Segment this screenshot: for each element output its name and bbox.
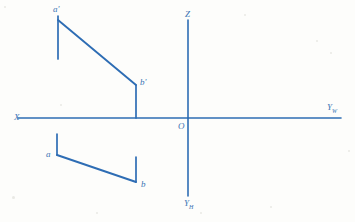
point-label-a: a: [46, 150, 51, 159]
paper-speckle: [316, 40, 318, 42]
z-axis-label: Z: [185, 10, 190, 19]
paper-speckle: [4, 6, 6, 8]
paper-speckle: [12, 196, 15, 199]
paper-speckle: [270, 206, 272, 208]
paper-speckle: [244, 14, 246, 16]
y-h-axis-label: YH: [184, 199, 193, 210]
x-axis-label: X: [14, 113, 20, 122]
y-w-axis-label: YW: [327, 103, 337, 114]
projection-drawing: [0, 0, 355, 222]
paper-speckle: [330, 52, 332, 54]
origin-label: O: [178, 122, 185, 131]
paper-speckle: [60, 104, 62, 106]
a-b-line: [57, 155, 136, 182]
point-label-b-prime: b': [140, 78, 146, 87]
y-h-subscript: H: [189, 204, 193, 210]
point-label-a-prime: a': [53, 5, 59, 14]
a-prime-b-prime-line: [58, 20, 136, 85]
drawing-canvas: X Z YW YH O a' b' a b: [0, 0, 355, 222]
paper-speckle: [348, 150, 350, 152]
y-w-subscript: W: [332, 108, 337, 114]
paper-speckle: [200, 212, 202, 214]
paper-speckle: [96, 212, 98, 214]
point-label-b: b: [141, 180, 146, 189]
